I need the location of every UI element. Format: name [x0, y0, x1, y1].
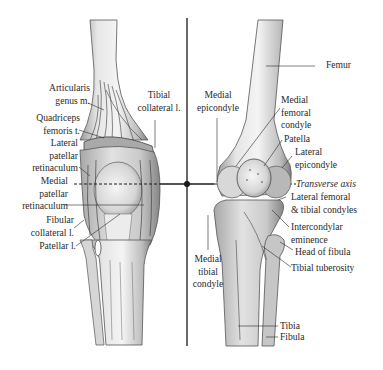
label-line: Articularis	[38, 82, 90, 95]
label-line: collateral l.	[128, 102, 190, 115]
label-line: epicondyle	[190, 102, 246, 115]
label-line: femoris t.	[14, 125, 80, 138]
label-transverse-axis: Transverse axis	[296, 178, 356, 191]
label-medial-femoral-condyle: Medial femoral condyle	[281, 94, 311, 132]
label-line: eminence	[291, 234, 343, 247]
label-line: Medial	[4, 175, 68, 188]
label-line: Head of fibula	[295, 246, 350, 259]
label-line: & tibial condyles	[291, 204, 357, 217]
label-patellar-ligament: Patellar l.	[16, 240, 76, 253]
label-head-of-fibula: Head of fibula	[295, 246, 350, 259]
label-tibial-tuberosity: Tibial tuberosity	[291, 262, 354, 275]
label-line: patellar	[10, 150, 78, 163]
label-line: Medial	[190, 89, 246, 102]
axis-intersection-dot	[184, 181, 190, 187]
label-lateral-patellar-retinaculum: Lateral patellar retinaculum	[10, 137, 78, 175]
label-line: Intercondylar	[291, 221, 343, 234]
label-line: Tibial tuberosity	[291, 262, 354, 275]
label-line: epicondyle	[295, 159, 337, 172]
label-line: femoral	[281, 107, 311, 120]
label-line: tibial	[188, 266, 228, 279]
label-line: Transverse axis	[296, 178, 356, 191]
label-medial-patellar-retinaculum: Medial patellar retinaculum	[4, 175, 68, 213]
label-line: patellar	[4, 188, 68, 201]
label-intercondylar-eminence: Intercondylar eminence	[291, 221, 343, 246]
right-knee-bones	[214, 20, 291, 346]
label-femur: Femur	[326, 59, 351, 72]
label-articularis-genus: Articularis genus m.	[38, 82, 90, 107]
label-quadriceps-femoris: Quadriceps femoris t.	[14, 112, 80, 137]
label-tibial-collateral: Tibial collateral l.	[128, 89, 190, 114]
label-line: Fibular	[10, 214, 74, 227]
label-line: Fibula	[280, 331, 305, 344]
label-line: genus m.	[38, 95, 90, 108]
label-line: retinaculum	[10, 162, 78, 175]
label-patella: Patella	[284, 133, 310, 146]
label-line: Femur	[326, 59, 351, 72]
knee-anatomy-figure: Articularis genus m. Tibial collateral l…	[0, 0, 383, 370]
label-line: Tibial	[128, 89, 190, 102]
label-line: collateral l.	[10, 227, 74, 240]
label-line: Quadriceps	[14, 112, 80, 125]
label-line: Medial	[281, 94, 311, 107]
label-line: Medial	[188, 253, 228, 266]
label-line: Lateral femoral	[291, 191, 357, 204]
label-medial-tibial-condyle: Medial tibial condyle	[188, 253, 228, 291]
label-line: condyle	[281, 119, 311, 132]
label-fibular-collateral: Fibular collateral l.	[10, 214, 74, 239]
left-knee-soft-tissue	[80, 20, 160, 345]
label-line: Lateral	[10, 137, 78, 150]
label-lateral-epicondyle: Lateral epicondyle	[295, 146, 337, 171]
label-medial-epicondyle: Medial epicondyle	[190, 89, 246, 114]
label-line: Lateral	[295, 146, 337, 159]
label-line: condyle	[188, 278, 228, 291]
label-line: Patella	[284, 133, 310, 146]
label-fibula: Fibula	[280, 331, 305, 344]
label-line: retinaculum	[4, 200, 68, 213]
label-lateral-femoral-tibial-condyles: Lateral femoral & tibial condyles	[291, 191, 357, 216]
label-line: Patellar l.	[16, 240, 76, 253]
